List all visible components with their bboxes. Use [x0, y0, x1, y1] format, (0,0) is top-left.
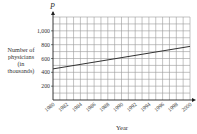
x-tick-label: 2000 [180, 101, 192, 113]
x-tick-label: 1984 [71, 101, 83, 113]
y-axis-label-line: Number of [8, 46, 36, 53]
y-axis-label-line: physicians [8, 53, 35, 60]
y-tick-label: 600 [41, 56, 50, 62]
x-tick-label: 1986 [84, 101, 96, 113]
y-axis-label-line: thousands) [8, 67, 35, 75]
physicians-line-chart: 2004006008001,000 1980198219841986198819… [0, 0, 197, 134]
x-tick-label: 1996 [153, 101, 165, 113]
x-tick-label: 1980 [43, 101, 55, 113]
y-tick-label: 800 [41, 42, 50, 48]
y-tick-label: 200 [41, 83, 50, 89]
x-tick-label: 1990 [112, 101, 124, 113]
x-tick-label: 1988 [98, 101, 110, 113]
y-tick-labels: 2004006008001,000 [37, 28, 53, 89]
y-tick-label: 1,000 [37, 28, 50, 34]
x-tick-labels: 1980198219841986198819901992199419961998… [43, 101, 192, 113]
x-tick-label: 1994 [139, 101, 151, 113]
x-axis-label: Year [116, 124, 129, 131]
x-axis-arrow-icon [192, 98, 196, 102]
x-tick-label: 1982 [57, 101, 69, 113]
x-tick-label: 1998 [167, 101, 179, 113]
chart-axes [51, 11, 196, 102]
y-tick-label: 400 [41, 69, 50, 75]
y-axis-arrow-icon [51, 11, 55, 15]
y-axis-label: Number ofphysicians(inthousands) [8, 46, 36, 75]
y-axis-symbol: P [49, 2, 55, 11]
x-tick-label: 1992 [126, 101, 138, 113]
chart-grid [53, 17, 190, 100]
